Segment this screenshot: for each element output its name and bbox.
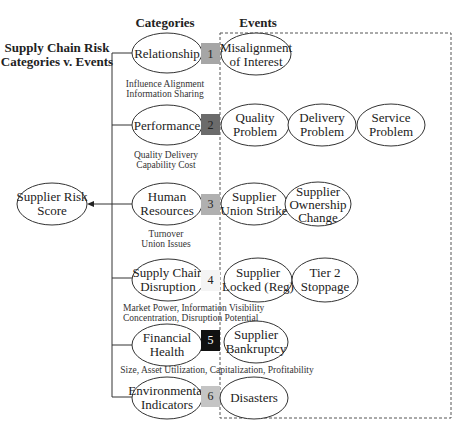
- supplier-risk-score-node: Supplier Risk Score: [16, 183, 88, 225]
- category-label-2: Health: [150, 344, 185, 359]
- category-sub-2: Union Issues: [141, 239, 191, 249]
- category-sub-1: Market Power, Information Visibility: [123, 303, 265, 313]
- event-line-3: Change: [298, 210, 338, 225]
- events-financial-health: Supplier Bankruptcy: [224, 321, 288, 363]
- category-label: Performance: [134, 118, 201, 133]
- category-label-1: Environmental: [128, 383, 206, 398]
- categories-header: Categories: [135, 15, 194, 30]
- event-line-1: Supplier: [232, 189, 277, 204]
- events-human-resources: Supplier Union Strike Supplier Ownership…: [221, 182, 351, 226]
- number-label: 1: [208, 47, 214, 61]
- category-sub-1: Size, Asset Utilization, Capitalization,…: [120, 365, 314, 375]
- event-line-2: Problem: [300, 124, 344, 139]
- events-relationship: Misalignment of Interest: [220, 33, 293, 75]
- supply-chain-risk-diagram: Supply Chain Risk Categories v. Events C…: [0, 0, 466, 433]
- category-sub-2: Concentration, Disruption Potential: [123, 313, 259, 323]
- event-line-2: of Interest: [229, 54, 282, 69]
- category-sub-1: Quality Delivery: [134, 150, 198, 160]
- number-label: 3: [208, 197, 214, 211]
- category-performance: Performance 2 Quality Delivery Capabilit…: [132, 105, 220, 170]
- events-environmental-indicators: Disasters: [220, 377, 288, 419]
- number-label: 4: [208, 273, 214, 287]
- event-line-1: Tier 2: [310, 265, 341, 280]
- event-line-1: Supplier: [234, 327, 279, 342]
- category-sub-2: Information Sharing: [126, 89, 204, 99]
- category-relationship: Relationship 1 Influence Alignment Infor…: [126, 33, 220, 99]
- event-line-2: Bankruptcy: [226, 341, 287, 356]
- category-label-2: Disruption: [140, 279, 196, 294]
- score-line-2: Score: [37, 203, 67, 218]
- events-performance: Quality Problem Delivery Problem Service…: [221, 104, 425, 146]
- number-label: 5: [208, 333, 214, 347]
- category-sub-1: Turnover: [148, 229, 184, 239]
- arrowhead-icon: [87, 201, 94, 207]
- number-label: 2: [208, 118, 214, 132]
- title-line-2: Categories v. Events: [1, 54, 113, 69]
- category-label-2: Resources: [140, 203, 193, 218]
- category-label-1: Financial: [143, 330, 192, 345]
- event-line-2: Locked (Reg): [222, 279, 294, 294]
- event-line-1: Quality: [236, 110, 275, 125]
- event-line-1: Service: [372, 110, 411, 125]
- event-line-2: Stoppage: [301, 279, 350, 294]
- event-line-2: Problem: [233, 124, 277, 139]
- category-label-1: Supply Chain: [132, 265, 204, 280]
- event-line-2: Union Strike: [221, 203, 288, 218]
- number-label: 6: [208, 389, 214, 403]
- event-line-1: Disasters: [230, 390, 278, 405]
- events-header: Events: [239, 15, 277, 30]
- score-line-1: Supplier Risk: [16, 189, 88, 204]
- category-label-2: Indicators: [141, 397, 193, 412]
- event-line-1: Delivery: [299, 110, 345, 125]
- event-line-1: Misalignment: [220, 40, 293, 55]
- connector-tree: [87, 53, 132, 397]
- title-line-1: Supply Chain Risk: [5, 40, 111, 55]
- category-human-resources: Human Resources 3 Turnover Union Issues: [132, 183, 220, 249]
- category-label-1: Human: [148, 189, 187, 204]
- category-label: Relationship: [134, 46, 200, 61]
- diagram-title: Supply Chain Risk Categories v. Events: [1, 40, 113, 69]
- event-line-2: Problem: [369, 124, 413, 139]
- events-supply-chain-disruption: Supplier Locked (Reg) Tier 2 Stoppage: [222, 258, 358, 302]
- category-environmental-indicators: Environmental Indicators 6: [128, 377, 220, 419]
- category-sub-1: Influence Alignment: [126, 79, 205, 89]
- category-sub-2: Capability Cost: [136, 160, 196, 170]
- event-line-1: Supplier: [236, 265, 281, 280]
